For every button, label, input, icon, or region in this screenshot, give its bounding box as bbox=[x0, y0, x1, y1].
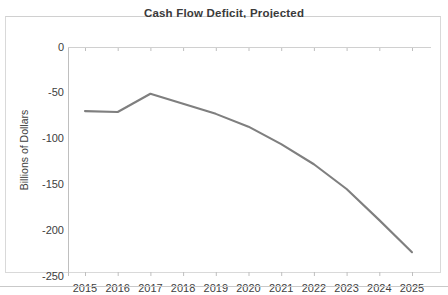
line-chart-svg bbox=[68, 47, 431, 276]
axis-ticks bbox=[68, 47, 413, 276]
y-tick-label: -50 bbox=[22, 87, 64, 98]
chart-title: Cash Flow Deficit, Projected bbox=[6, 7, 442, 18]
series-line-cash-flow-deficit bbox=[85, 94, 412, 252]
y-tick-label: -200 bbox=[22, 225, 64, 236]
y-tick-label: -100 bbox=[22, 133, 64, 144]
plot-area bbox=[68, 47, 431, 276]
y-tick-label: 0 bbox=[22, 42, 64, 53]
y-tick-label: -250 bbox=[22, 271, 64, 282]
y-tick-label: -150 bbox=[22, 179, 64, 190]
y-axis-tick-labels: 0-50-100-150-200-250 bbox=[20, 17, 64, 274]
chart-frame: Cash Flow Deficit, Projected Billions of… bbox=[5, 16, 441, 273]
page-bottom-rule bbox=[0, 286, 448, 287]
x-axis-tick-labels: 2015201620172018201920202021202220232024… bbox=[68, 281, 431, 295]
x-tick-label: 2025 bbox=[392, 281, 432, 295]
